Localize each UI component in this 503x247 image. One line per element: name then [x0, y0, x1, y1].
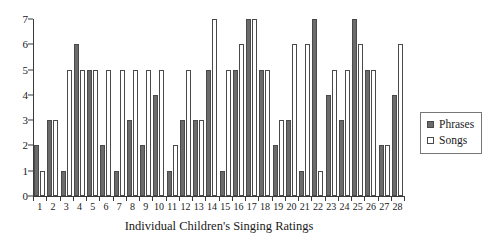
- x-tick-label-8: 8: [130, 202, 135, 212]
- y-tick-label-6: 6: [0, 39, 28, 50]
- y-tick-label-3: 3: [0, 115, 28, 126]
- x-tick-label-5: 5: [90, 202, 95, 212]
- bar-songs-1: [40, 171, 45, 196]
- x-tick-mark-3: [60, 197, 61, 201]
- bar-group: [298, 19, 311, 196]
- bar-songs-4: [80, 70, 85, 196]
- bar-phrases-4: [74, 44, 79, 196]
- x-tick-label-6: 6: [103, 202, 108, 212]
- bar-group: [245, 19, 258, 196]
- bar-songs-18: [265, 70, 270, 196]
- bar-songs-11: [173, 145, 178, 196]
- bar-phrases-18: [259, 70, 264, 196]
- x-tick-label-23: 23: [326, 202, 336, 212]
- bar-songs-23: [332, 70, 337, 196]
- x-tick-mark-9: [139, 197, 140, 201]
- y-tick-label-1: 1: [0, 165, 28, 176]
- x-tick-mark-end: [404, 197, 405, 201]
- x-tick-label-2: 2: [50, 202, 55, 212]
- x-axis-title: Individual Children's Singing Ratings: [33, 219, 405, 234]
- bar-songs-6: [106, 70, 111, 196]
- bar-phrases-22: [312, 19, 317, 196]
- bar-phrases-17: [246, 19, 251, 196]
- bar-phrases-14: [206, 70, 211, 196]
- bar-phrases-28: [392, 95, 397, 196]
- bar-group: [232, 19, 245, 196]
- bar-songs-2: [53, 120, 58, 196]
- bar-group: [126, 19, 139, 196]
- bar-songs-25: [358, 44, 363, 196]
- legend-item-songs: Songs: [427, 133, 474, 149]
- bar-group: [272, 19, 285, 196]
- x-tick-label-7: 7: [117, 202, 122, 212]
- bar-group: [73, 19, 86, 196]
- x-tick-mark-1: [33, 197, 34, 201]
- bar-phrases-9: [140, 145, 145, 196]
- bar-phrases-12: [180, 120, 185, 196]
- bar-group: [338, 19, 351, 196]
- legend-item-phrases: Phrases: [427, 117, 474, 133]
- bar-songs-10: [159, 70, 164, 196]
- x-tick-mark-8: [126, 197, 127, 201]
- bar-phrases-16: [233, 70, 238, 196]
- x-tick-label-20: 20: [286, 202, 296, 212]
- y-tick-label-5: 5: [0, 64, 28, 75]
- bar-phrases-3: [61, 171, 66, 196]
- bar-songs-24: [345, 70, 350, 196]
- bar-songs-7: [120, 70, 125, 196]
- bar-songs-27: [385, 145, 390, 196]
- bar-group: [46, 19, 59, 196]
- bar-songs-12: [186, 70, 191, 196]
- bar-songs-14: [212, 19, 217, 196]
- bar-group: [139, 19, 152, 196]
- x-tick-mark-4: [73, 197, 74, 201]
- bar-group: [192, 19, 205, 196]
- bar-group: [258, 19, 271, 196]
- x-tick-mark-2: [46, 197, 47, 201]
- x-tick-label-4: 4: [77, 202, 82, 212]
- bar-songs-19: [279, 120, 284, 196]
- legend-label-phrases: Phrases: [439, 117, 474, 133]
- x-tick-label-16: 16: [233, 202, 243, 212]
- x-tick-label-25: 25: [353, 202, 363, 212]
- x-tick-label-19: 19: [273, 202, 283, 212]
- x-tick-label-17: 17: [247, 202, 257, 212]
- bar-group: [113, 19, 126, 196]
- bar-songs-9: [146, 70, 151, 196]
- x-tick-label-1: 1: [37, 202, 42, 212]
- bar-group: [219, 19, 232, 196]
- bar-group: [311, 19, 324, 196]
- x-tick-label-22: 22: [313, 202, 323, 212]
- bar-phrases-20: [286, 120, 291, 196]
- outline-square-icon: [427, 137, 434, 144]
- bar-songs-20: [292, 44, 297, 196]
- legend-label-songs: Songs: [439, 133, 467, 149]
- bar-phrases-10: [153, 95, 158, 196]
- bar-group: [285, 19, 298, 196]
- bar-songs-28: [398, 44, 403, 196]
- bar-songs-13: [199, 120, 204, 196]
- y-tick-label-4: 4: [0, 89, 28, 100]
- bar-songs-16: [239, 44, 244, 196]
- bar-group: [86, 19, 99, 196]
- bar-phrases-7: [114, 171, 119, 196]
- bar-group: [378, 19, 391, 196]
- bar-songs-8: [133, 70, 138, 196]
- bar-group: [179, 19, 192, 196]
- x-tick-label-28: 28: [392, 202, 402, 212]
- bar-group: [364, 19, 377, 196]
- x-tick-label-18: 18: [260, 202, 270, 212]
- bar-phrases-21: [299, 171, 304, 196]
- bar-phrases-5: [87, 70, 92, 196]
- bar-songs-21: [305, 44, 310, 196]
- bar-phrases-1: [34, 145, 39, 196]
- x-tick-label-26: 26: [366, 202, 376, 212]
- y-tick-label-7: 7: [0, 14, 28, 25]
- x-tick-label-11: 11: [167, 202, 177, 212]
- bar-group: [33, 19, 46, 196]
- bar-group: [205, 19, 218, 196]
- bar-group: [152, 19, 165, 196]
- filled-square-icon: [427, 121, 434, 128]
- bar-group: [99, 19, 112, 196]
- y-tick-label-0: 0: [0, 191, 28, 202]
